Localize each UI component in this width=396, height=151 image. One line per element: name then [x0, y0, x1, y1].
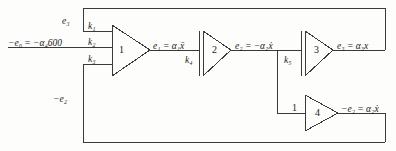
feedback-top-label: e₃ — [62, 17, 70, 27]
amplifier-1-output-label: e₁ = α₁ẍ — [153, 42, 184, 52]
input-signal-label: −e₀ = −α₄600 — [8, 39, 62, 49]
wire-label-k1: k₁ — [88, 22, 96, 32]
amplifier-3-body — [305, 31, 333, 76]
amplifier-4-output-label: −e₂ = α₂ẋ — [341, 105, 379, 115]
wire-label-k3: k₃ — [88, 55, 96, 65]
amplifier-4-body — [305, 95, 338, 131]
amplifier-1-number: 1 — [119, 45, 124, 55]
feedback-bottom-label: −e₂ — [53, 95, 67, 105]
wire-label-k4: k₄ — [185, 56, 193, 66]
amplifier-4-number: 4 — [315, 108, 320, 118]
wire-label-k2: k₂ — [88, 38, 96, 48]
amplifier-1-body — [112, 25, 150, 76]
amplifier-2-number: 2 — [212, 45, 217, 55]
amplifier-3-number: 3 — [314, 45, 319, 55]
amplifier-2-body — [203, 31, 231, 76]
wire-label-unity-gain: 1 — [292, 103, 297, 113]
amplifier-2-output-label: e₂ = −α₂ẋ — [235, 42, 273, 52]
wiring-layer — [0, 0, 396, 151]
analog-computer-diagram: e₃ −e₀ = −α₄600 k₁ k₂ k₃ 1 e₁ = α₁ẍ k₄ … — [0, 0, 396, 151]
amplifier-3-output-label: e₃ = α₃x — [337, 42, 368, 52]
wire-label-k5: k₅ — [284, 56, 292, 66]
